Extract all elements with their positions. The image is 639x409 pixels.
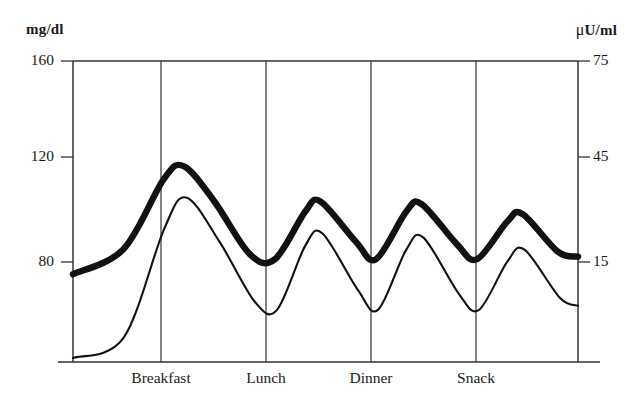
chart-plot-area (0, 0, 639, 409)
x-tick-label-dinner: Dinner (349, 369, 392, 387)
insulin-curve (73, 197, 578, 358)
left-axis-unit-label: mg/dl (26, 21, 64, 38)
y-right-tick-label-15: 15 (593, 252, 639, 270)
y-right-tick-label-45: 45 (593, 147, 639, 165)
x-tick-label-snack: Snack (457, 369, 495, 387)
right-axis-unit-label: μU/ml (576, 21, 617, 39)
x-tick-label-breakfast: Breakfast (131, 369, 190, 387)
y-left-tick-label-80: 80 (8, 252, 54, 270)
glucose-insulin-chart: mg/dl μU/ml 160 120 80 75 45 15 Breakfas… (0, 0, 639, 409)
y-right-tick-label-75: 75 (593, 51, 639, 69)
right-axis-unit-rest: U/ml (585, 22, 617, 38)
glucose-curve (73, 165, 578, 274)
mu-glyph: μ (576, 21, 585, 38)
y-left-tick-label-160: 160 (8, 51, 54, 69)
x-tick-label-lunch: Lunch (246, 369, 286, 387)
y-left-tick-label-120: 120 (8, 147, 54, 165)
